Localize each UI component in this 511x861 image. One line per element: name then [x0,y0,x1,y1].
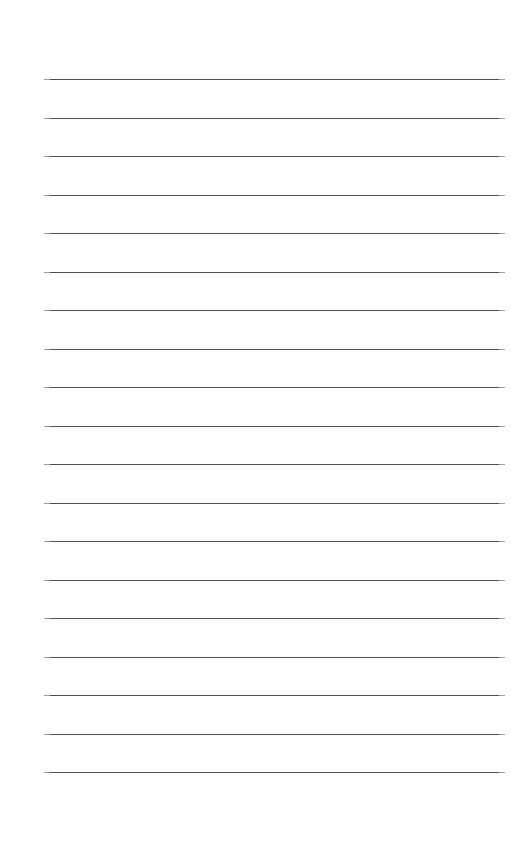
rule-line-11[interactable] [44,464,505,465]
rule-line-18[interactable] [44,734,505,735]
rule-line-1[interactable] [44,79,505,80]
rule-line-13[interactable] [44,541,505,542]
ruled-page [0,0,511,861]
rule-line-14[interactable] [44,580,505,581]
rule-line-19[interactable] [44,772,505,773]
rule-line-8[interactable] [44,349,505,350]
rule-line-2[interactable] [44,118,505,119]
rule-line-16[interactable] [44,657,505,658]
rule-line-17[interactable] [44,695,505,696]
rule-line-12[interactable] [44,503,505,504]
rule-line-7[interactable] [44,310,505,311]
ruled-writing-area[interactable] [0,0,511,861]
rule-line-4[interactable] [44,195,505,196]
rule-line-10[interactable] [44,426,505,427]
rule-line-9[interactable] [44,387,505,388]
rule-line-3[interactable] [44,156,505,157]
rule-line-5[interactable] [44,233,505,234]
rule-line-15[interactable] [44,618,505,619]
rule-line-6[interactable] [44,272,505,273]
